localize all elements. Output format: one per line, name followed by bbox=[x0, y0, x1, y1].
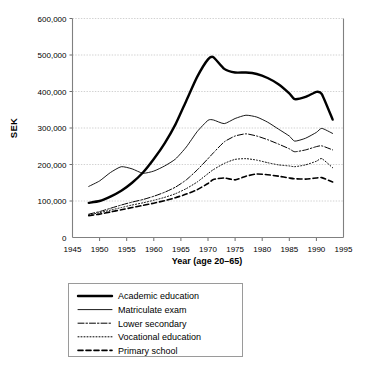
y-axis-title: SEK bbox=[8, 118, 19, 138]
y-tick-label: 300,000 bbox=[38, 124, 67, 133]
x-tick-label: 1975 bbox=[226, 245, 244, 254]
legend-label: Academic education bbox=[118, 291, 199, 301]
line-chart: 0100,000200,000300,000400,000500,000600,… bbox=[0, 0, 373, 380]
y-tick-label: 500,000 bbox=[38, 51, 67, 60]
x-tick-label: 1980 bbox=[253, 245, 271, 254]
x-tick-label: 1950 bbox=[91, 245, 109, 254]
legend: Academic educationMatriculate examLower … bbox=[78, 291, 201, 355]
series-line bbox=[89, 134, 333, 214]
data-series bbox=[89, 57, 333, 216]
x-tick-label: 1990 bbox=[308, 245, 326, 254]
legend-label: Primary school bbox=[118, 346, 178, 356]
y-tick-label: 200,000 bbox=[38, 161, 67, 170]
x-tick-label: 1960 bbox=[145, 245, 163, 254]
chart-figure: 0100,000200,000300,000400,000500,000600,… bbox=[0, 0, 373, 380]
x-tick-label: 1995 bbox=[335, 245, 353, 254]
y-tick-label: 400,000 bbox=[38, 88, 67, 97]
legend-label: Vocational education bbox=[118, 332, 201, 342]
x-tick-label: 1985 bbox=[280, 245, 298, 254]
x-axis-title: Year (age 20–65) bbox=[172, 256, 243, 266]
y-tick-label: 100,000 bbox=[38, 197, 67, 206]
y-tick-label: 600,000 bbox=[38, 15, 67, 24]
y-axis-ticks: 0100,000200,000300,000400,000500,000600,… bbox=[38, 15, 73, 243]
x-axis-ticks: 1945195019551960196519701975198019851990… bbox=[64, 238, 353, 254]
series-line bbox=[89, 115, 333, 186]
y-tick-label: 0 bbox=[62, 234, 67, 243]
x-tick-label: 1955 bbox=[118, 245, 136, 254]
x-tick-label: 1970 bbox=[199, 245, 217, 254]
legend-label: Lower secondary bbox=[118, 319, 187, 329]
x-tick-label: 1965 bbox=[172, 245, 190, 254]
legend-label: Matriculate exam bbox=[118, 305, 187, 315]
series-line bbox=[89, 174, 333, 216]
gridlines bbox=[73, 19, 344, 202]
x-tick-label: 1945 bbox=[64, 245, 82, 254]
